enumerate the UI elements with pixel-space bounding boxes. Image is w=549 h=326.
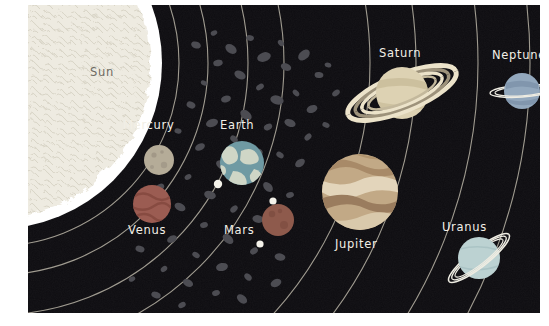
- label-mercury: Mercury: [123, 118, 175, 132]
- planet-mercury[interactable]: [144, 145, 174, 175]
- moon-deimos: [256, 240, 263, 247]
- label-neptune: Neptune: [492, 48, 540, 62]
- space-panel: Sun Mercury Venus Earth Mars Jupiter Sat…: [28, 5, 540, 313]
- label-mars: Mars: [224, 223, 255, 237]
- label-uranus: Uranus: [442, 220, 487, 234]
- label-jupiter: Jupiter: [335, 237, 377, 251]
- moon-phobos: [269, 197, 276, 204]
- label-sun: Sun: [90, 65, 114, 79]
- solar-system-poster: Sun Mercury Venus Earth Mars Jupiter Sat…: [0, 0, 549, 326]
- moon-luna: [214, 180, 222, 188]
- solar-system-diagram: [28, 5, 540, 313]
- planet-mars[interactable]: [262, 204, 294, 236]
- label-venus: Venus: [128, 223, 166, 237]
- label-earth: Earth: [220, 118, 254, 132]
- label-saturn: Saturn: [379, 46, 421, 60]
